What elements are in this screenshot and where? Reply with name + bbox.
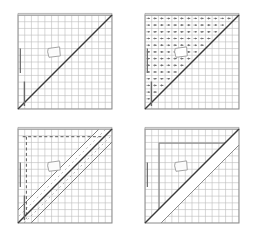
obstacle-polygon-0 (48, 47, 61, 57)
panel-1-svg (127, 0, 253, 114)
panel-bottom-right (127, 114, 253, 228)
panel-top-right (127, 0, 253, 114)
obstacle-polygon-3 (175, 161, 188, 171)
top-strip-0 (18, 13, 112, 15)
panel-bottom-left (0, 114, 126, 228)
panel-top-left (0, 0, 126, 114)
diagonal-band-3 (145, 129, 247, 228)
corridor-dash-a-2 (12, 123, 112, 223)
panel-bottom-right-plot (127, 114, 253, 228)
figure-canvas (0, 0, 253, 228)
corridor-band-2 (5, 114, 126, 223)
panel-top-right-plot (127, 0, 253, 114)
panel-2-svg (0, 114, 126, 228)
panel-3-svg (127, 114, 253, 228)
top-strip-1 (145, 13, 239, 15)
corridor-dash-b-2 (24, 123, 124, 223)
panel-top-left-plot (0, 0, 126, 114)
top-strip-3 (145, 127, 239, 129)
arrow-field-1 (147, 18, 231, 98)
top-strip-2 (18, 127, 112, 129)
diagonal-band-fill-3 (145, 129, 247, 228)
panel-bottom-left-plot (0, 114, 126, 228)
panel-0-svg (0, 0, 126, 114)
obstacle-polygon-1 (175, 47, 188, 57)
obstacle-polygon-2 (48, 161, 61, 171)
